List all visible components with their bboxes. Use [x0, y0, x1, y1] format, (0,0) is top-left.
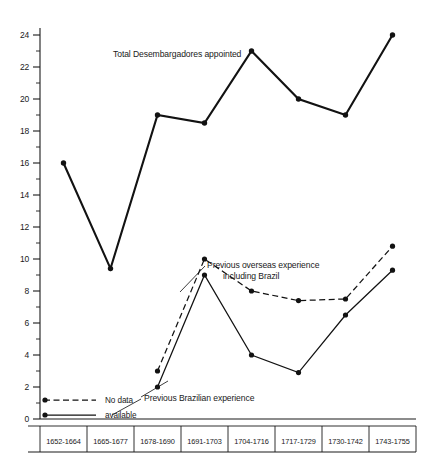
- data-point-marker: [390, 32, 395, 37]
- data-point-marker: [390, 244, 395, 249]
- data-point-marker: [249, 352, 254, 357]
- y-axis-tick-label: 24: [20, 30, 30, 40]
- y-axis-tick-label: 18: [20, 126, 30, 136]
- data-point-marker: [296, 370, 301, 375]
- data-point-marker: [249, 48, 254, 53]
- data-point-marker: [296, 96, 301, 101]
- x-category-label: 1678-1690: [140, 437, 174, 446]
- series-markers-brazil: [155, 268, 395, 390]
- y-axis: 024681012141618202224: [20, 28, 40, 424]
- annotation-brazil: Previous Brazilian experience: [112, 381, 255, 415]
- legend-marker-solid: [42, 412, 47, 417]
- line-chart-svg: 024681012141618202224 1652-16641665-1677…: [0, 0, 424, 461]
- x-category-label: 1704-1716: [234, 437, 268, 446]
- data-point-marker: [202, 272, 207, 277]
- series-line-total-desembargadores: [64, 35, 393, 269]
- legend-entry-no-data: No data: [42, 396, 133, 405]
- y-axis-tick-label: 8: [24, 286, 29, 296]
- x-category-label: 1652-1664: [46, 437, 80, 446]
- data-point-marker: [61, 160, 66, 165]
- data-point-marker: [249, 288, 254, 293]
- y-axis-tick-label: 0: [24, 414, 29, 424]
- data-point-marker: [296, 298, 301, 303]
- y-axis-tick-label: 16: [20, 158, 30, 168]
- annotation-overseas-label-line2: including Brazil: [223, 271, 279, 281]
- y-axis-tick-label: 2: [24, 382, 29, 392]
- data-point-marker: [343, 112, 348, 117]
- annotation-overseas-label-line1: Previous overseas experience: [207, 260, 320, 270]
- annotation-total: Total Desembargadores appointed: [113, 49, 242, 59]
- x-category-label: 1743-1755: [375, 437, 409, 446]
- y-axis-tick-label: 14: [20, 190, 30, 200]
- data-point-marker: [155, 368, 160, 373]
- y-axis-tick-label: 22: [20, 62, 30, 72]
- y-axis-tick-label: 10: [20, 254, 30, 264]
- legend-label-no-data: No data: [105, 396, 134, 405]
- data-point-marker: [343, 312, 348, 317]
- y-axis-tick-label: 20: [20, 94, 30, 104]
- annotation-total-label: Total Desembargadores appointed: [113, 49, 242, 59]
- chart-figure: 024681012141618202224 1652-16641665-1677…: [0, 0, 424, 461]
- y-axis-tick-labels: 024681012141618202224: [20, 30, 30, 424]
- x-category-label: 1665-1677: [93, 437, 127, 446]
- data-point-marker: [390, 268, 395, 273]
- annotation-overseas: Previous overseas experience including B…: [180, 260, 320, 292]
- series-group: [61, 32, 395, 389]
- legend-marker-dashed: [42, 397, 47, 402]
- legend-label-available: available: [105, 411, 137, 420]
- y-axis-tick-label: 12: [20, 222, 30, 232]
- data-point-marker: [343, 296, 348, 301]
- y-axis-tick-label: 4: [24, 350, 29, 360]
- y-axis-ticks: [33, 35, 40, 419]
- series-markers-total: [61, 32, 395, 271]
- x-category-label: 1730-1742: [328, 437, 362, 446]
- x-axis: 1652-16641665-16771678-16901691-17031704…: [28, 419, 416, 452]
- y-axis-tick-label: 6: [24, 318, 29, 328]
- data-point-marker: [155, 112, 160, 117]
- legend: No data available: [42, 396, 137, 420]
- x-category-label: 1691-1703: [187, 437, 221, 446]
- data-point-marker: [108, 266, 113, 271]
- x-category-label: 1717-1729: [281, 437, 315, 446]
- data-point-marker: [202, 120, 207, 125]
- annotation-brazil-label: Previous Brazilian experience: [144, 393, 255, 403]
